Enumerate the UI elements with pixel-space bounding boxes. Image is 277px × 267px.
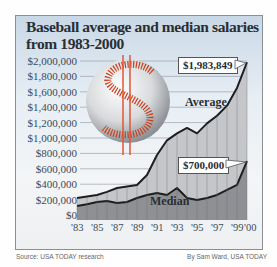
average-2000-callout: $1,983,849 bbox=[178, 57, 238, 74]
credit-note: By Sam Ward, USA TODAY bbox=[187, 253, 267, 260]
median-label: Median bbox=[150, 194, 189, 209]
chart-plot bbox=[0, 0, 277, 267]
average-label: Average bbox=[185, 95, 227, 110]
median-2000-callout: $700,000 bbox=[178, 157, 229, 174]
baseball-dollar-icon bbox=[86, 55, 170, 155]
source-note: Source: USA TODAY research bbox=[16, 253, 104, 260]
